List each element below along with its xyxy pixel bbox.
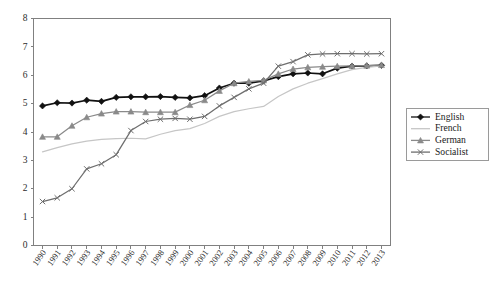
y-tick-label: 3 — [23, 155, 28, 165]
data-point-diamond — [157, 93, 163, 99]
y-tick-label: 6 — [23, 70, 28, 80]
x-tick-label: 1994 — [89, 247, 107, 267]
x-tick-label: 1993 — [74, 248, 92, 268]
plot-frame — [34, 18, 391, 246]
legend-label: French — [435, 122, 462, 133]
x-tick-label: 1995 — [104, 248, 122, 268]
data-point-cross — [113, 152, 118, 157]
legend-label: Socialist — [435, 146, 468, 157]
legend-label: German — [435, 134, 466, 145]
y-tick-label: 0 — [23, 240, 28, 250]
data-point-diamond — [39, 103, 45, 109]
data-point-diamond — [69, 100, 75, 106]
x-tick-label: 1991 — [45, 248, 63, 268]
x-tick-label: 2008 — [295, 248, 313, 268]
data-point-cross — [217, 103, 222, 108]
data-point-diamond — [172, 94, 178, 100]
data-point-cross — [231, 95, 236, 100]
x-tick-label: 1992 — [60, 248, 78, 268]
data-point-cross — [128, 128, 133, 133]
legend-label: English — [435, 111, 465, 122]
y-tick-label: 8 — [23, 13, 28, 23]
series-layer — [39, 51, 384, 204]
x-tick-label: 1997 — [133, 247, 151, 267]
y-tick-label: 2 — [23, 183, 28, 193]
data-point-triangle — [202, 97, 208, 103]
x-tick-label: 2012 — [354, 248, 372, 268]
data-point-diamond — [84, 97, 90, 103]
y-tick-label: 4 — [23, 127, 28, 137]
y-tick-label: 7 — [23, 42, 28, 52]
data-point-diamond — [128, 94, 134, 100]
y-axis-ticks: 012345678 — [23, 13, 34, 250]
series-line — [43, 66, 382, 152]
data-point-cross — [246, 86, 251, 91]
x-tick-label: 2003 — [222, 248, 240, 268]
y-tick-label: 1 — [23, 212, 28, 222]
x-tick-label: 2002 — [207, 248, 225, 268]
data-point-diamond — [54, 100, 60, 106]
data-point-diamond — [319, 71, 325, 77]
series-french — [43, 66, 382, 152]
data-point-diamond — [187, 95, 193, 101]
data-point-diamond — [113, 94, 119, 100]
x-tick-label: 1996 — [119, 247, 137, 267]
x-tick-label: 1998 — [148, 248, 166, 268]
x-tick-label: 2011 — [340, 248, 358, 268]
line-chart: 012345678 199019911992199319941995199619… — [0, 0, 497, 289]
x-tick-label: 2001 — [192, 248, 210, 268]
data-point-diamond — [98, 98, 104, 104]
data-point-triangle — [69, 123, 75, 129]
data-point-cross — [69, 186, 74, 191]
x-tick-label: 2009 — [310, 248, 328, 268]
x-tick-label: 2010 — [325, 248, 343, 268]
x-tick-label: 2004 — [236, 247, 254, 267]
x-tick-label: 1999 — [163, 248, 181, 268]
series-english — [39, 62, 384, 109]
chart-canvas: 012345678 199019911992199319941995199619… — [0, 0, 497, 289]
x-axis-ticks: 1990199119921993199419951996199719981999… — [30, 246, 387, 268]
series-line — [43, 65, 382, 106]
series-socialist — [40, 51, 384, 204]
x-tick-label: 2006 — [266, 247, 284, 267]
x-tick-label: 2013 — [369, 248, 387, 268]
x-tick-label: 2005 — [251, 248, 269, 268]
chart-legend: EnglishFrenchGermanSocialist — [407, 109, 489, 161]
data-point-diamond — [305, 70, 311, 76]
x-tick-label: 1990 — [30, 248, 48, 268]
x-tick-label: 2000 — [177, 248, 195, 268]
x-tick-label: 2007 — [281, 247, 299, 267]
data-point-diamond — [143, 94, 149, 100]
y-tick-label: 5 — [23, 98, 28, 108]
